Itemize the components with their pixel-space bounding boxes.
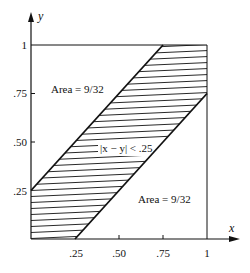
x-tick-label-1: 1 [204,247,210,259]
x-axis-label: x [228,221,235,235]
upper-boundary-line [31,45,163,191]
y-axis-arrow-icon [28,12,34,22]
upper-area-label: Area = 9/32 [51,83,104,95]
y-axis-label: y [37,9,44,23]
y-tick-label-75: .75 [13,87,27,99]
band-label: |x − y| < .25 [100,142,153,154]
lower-boundary-line [75,94,207,240]
x-axis-arrow-icon [229,236,240,242]
lower-area-label: Area = 9/32 [138,193,191,205]
y-tick-label-1: 1 [22,39,28,51]
probability-diagram: y x 1 .75 .50 .25 .25 .50 .75 1 Area = 9… [0,0,250,273]
x-tick-label-75: .75 [156,247,170,259]
y-tick-label-50: .50 [13,136,27,148]
x-tick-label-25: .25 [69,247,83,259]
x-tick-label-50: .50 [112,247,126,259]
y-tick-label-25: .25 [13,185,27,197]
